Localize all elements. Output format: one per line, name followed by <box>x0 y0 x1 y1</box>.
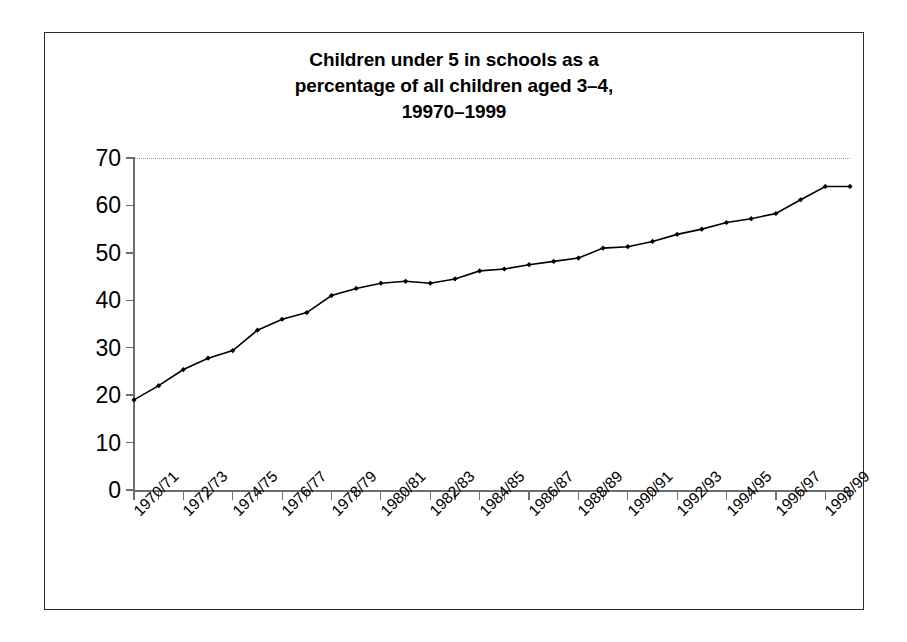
data-point-marker <box>526 262 531 267</box>
data-point-marker <box>601 246 606 251</box>
chart-figure-frame: Children under 5 in schools as a percent… <box>44 32 864 610</box>
data-point-marker <box>502 266 507 271</box>
data-point-marker <box>403 279 408 284</box>
data-point-marker <box>576 255 581 260</box>
series-markers <box>131 184 852 403</box>
series-line <box>134 186 850 399</box>
data-point-marker <box>354 286 359 291</box>
data-series-layer <box>45 33 865 611</box>
data-point-marker <box>650 239 655 244</box>
data-point-marker <box>699 227 704 232</box>
data-point-marker <box>378 281 383 286</box>
data-point-marker <box>749 216 754 221</box>
data-point-marker <box>724 220 729 225</box>
data-point-marker <box>428 281 433 286</box>
data-point-marker <box>452 276 457 281</box>
data-point-marker <box>477 268 482 273</box>
data-point-marker <box>280 317 285 322</box>
data-point-marker <box>625 244 630 249</box>
data-point-marker <box>847 184 852 189</box>
data-point-marker <box>551 259 556 264</box>
data-point-marker <box>205 356 210 361</box>
data-point-marker <box>675 232 680 237</box>
